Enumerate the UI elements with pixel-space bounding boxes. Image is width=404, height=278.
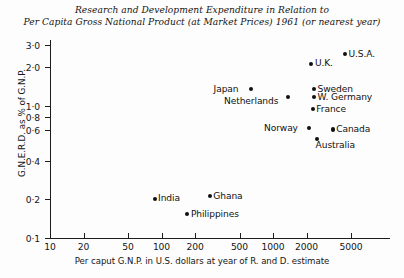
data-point-canada (331, 127, 335, 131)
x-tick-6 (273, 233, 274, 239)
chart-title: Research and Development Expenditure in … (0, 4, 404, 29)
y-tick-3 (45, 130, 51, 131)
data-point-usa (343, 52, 347, 56)
x-tick-3 (162, 233, 163, 239)
y-tick-6 (45, 67, 51, 68)
data-point-label-netherlands: Netherlands (224, 96, 278, 106)
data-point-uk (309, 62, 313, 66)
data-point-norway (307, 126, 311, 130)
x-ticklabel-8: 5000 (328, 241, 374, 252)
data-point-label-india: India (158, 193, 180, 203)
y-axis-spine (50, 40, 51, 239)
data-point-france (311, 107, 315, 111)
chart-title-line-1: Research and Development Expenditure in … (75, 5, 329, 15)
data-point-label-uk: U.K. (315, 58, 333, 68)
x-ticklabel-1: 20 (61, 241, 107, 252)
x-tick-5 (240, 233, 241, 239)
x-tick-4 (195, 233, 196, 239)
x-axis-title: Per caput G.N.P. in U.S. dollars at year… (0, 256, 404, 266)
y-tick-2 (45, 161, 51, 162)
x-ticklabel-4: 200 (172, 241, 218, 252)
x-tick-1 (84, 233, 85, 239)
data-point-label-japan: Japan (214, 84, 239, 94)
data-point-label-usa: U.S.A. (348, 49, 375, 59)
data-point-label-ghana: Ghana (213, 191, 242, 201)
data-point-label-france: France (316, 104, 346, 114)
chart-title-line-2: Per Capita Gross National Product (at Ma… (0, 16, 404, 28)
y-axis-title: G.N.E.R.D. as % of G.N.P. (17, 43, 27, 203)
data-point-wgermany (312, 95, 316, 99)
data-point-label-norway: Norway (264, 123, 298, 133)
data-point-label-philippines: Philippines (191, 209, 239, 219)
data-point-ghana (208, 194, 212, 198)
figure: Research and Development Expenditure in … (0, 0, 404, 278)
data-point-label-canada: Canada (336, 124, 370, 134)
data-point-label-wgermany: W. Germany (318, 92, 373, 102)
x-tick-8 (351, 233, 352, 239)
y-tick-1 (45, 199, 51, 200)
data-point-netherlands (286, 95, 290, 99)
data-point-india (153, 197, 157, 201)
x-tick-0 (50, 233, 51, 239)
y-tick-4 (45, 117, 51, 118)
y-tick-5 (45, 106, 51, 107)
x-tick-7 (307, 233, 308, 239)
data-point-sweden (312, 87, 316, 91)
data-point-philippines (185, 212, 189, 216)
data-point-label-australia: Australia (316, 140, 355, 150)
x-ticklabel-7: 2000 (284, 241, 330, 252)
y-tick-7 (45, 45, 51, 46)
x-tick-2 (128, 233, 129, 239)
x-axis-spine (50, 238, 390, 239)
data-point-japan (249, 87, 253, 91)
